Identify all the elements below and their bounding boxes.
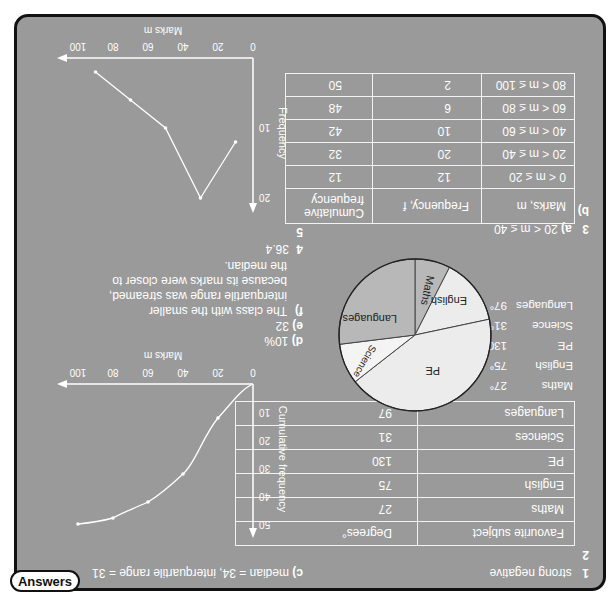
x-tick: 20 bbox=[212, 41, 224, 52]
pie-legend: Maths 27° English 75° PE 130° Science 31… bbox=[483, 296, 573, 396]
y-tick: 10 bbox=[259, 122, 271, 133]
cell: 40 < m ≤ 60 bbox=[482, 120, 575, 143]
legend-label: Science bbox=[507, 320, 573, 332]
x-tick: 80 bbox=[107, 41, 119, 52]
q3c-answer: median = 34, interquartile range = 31 bbox=[92, 566, 289, 580]
header-subject: Favourite subject bbox=[418, 522, 575, 546]
q3c-label: c) bbox=[292, 566, 303, 580]
answers-page: 1 strong negative 2 Favourite subject De… bbox=[0, 0, 616, 603]
table-row: 20 < m ≤ 40 20 32 bbox=[286, 143, 575, 166]
cumulative-curve bbox=[78, 384, 253, 524]
cell: Maths bbox=[418, 498, 575, 522]
cell: 6 bbox=[373, 97, 482, 120]
cell: 2 bbox=[373, 74, 482, 97]
q3a-label: a) bbox=[561, 222, 572, 236]
q4: 436.4 bbox=[33, 241, 303, 256]
x-tick: 60 bbox=[142, 41, 154, 52]
legend-label: Languages bbox=[507, 300, 573, 312]
table-row: 80 < m ≤ 100 2 50 bbox=[286, 74, 575, 97]
y-axis-label: Frequency bbox=[277, 107, 289, 159]
q3b-label: b) bbox=[578, 204, 589, 218]
legend-item: English 75° bbox=[483, 356, 573, 376]
y-tick: 20 bbox=[259, 192, 271, 203]
header-frequency: Frequency, f bbox=[373, 189, 482, 224]
legend-item: Languages 97° bbox=[483, 296, 573, 316]
legend-label: Maths bbox=[507, 380, 573, 392]
cell: 20 bbox=[373, 143, 482, 166]
table-row: 40 < m ≤ 60 10 42 bbox=[286, 120, 575, 143]
pie-slice-languages bbox=[339, 259, 415, 344]
y-tick: 30 bbox=[259, 463, 271, 474]
q3c: c) median = 34, interquartile range = 31 bbox=[92, 566, 303, 580]
x-tick: 40 bbox=[177, 41, 189, 52]
y-axis-label: Cumulative frequency bbox=[277, 406, 289, 513]
q3a-answer: 20 < m ≤ 40 bbox=[494, 222, 558, 236]
answers-tab: Answers bbox=[10, 570, 80, 592]
cell: 20 < m ≤ 40 bbox=[482, 143, 575, 166]
x-tick: 80 bbox=[107, 367, 119, 378]
frequency-polygon-chart: 0 20 40 60 80 100 Marks m 10 20 Frequenc… bbox=[23, 23, 303, 243]
pie-label-languages: Languages bbox=[342, 313, 397, 325]
x-tick: 100 bbox=[69, 367, 86, 378]
cell: 80 < m ≤ 100 bbox=[482, 74, 575, 97]
answers-panel: 1 strong negative 2 Favourite subject De… bbox=[14, 14, 606, 591]
cell: 60 < m ≤ 80 bbox=[482, 97, 575, 120]
cell: 0 < m ≤ 20 bbox=[482, 166, 575, 189]
legend-item: Science 31° bbox=[483, 316, 573, 336]
table-row: 0 < m ≤ 20 12 12 bbox=[286, 166, 575, 189]
y-tick: 50 bbox=[259, 519, 271, 530]
q3d: d) 10% bbox=[33, 333, 303, 348]
pie-label-english: English bbox=[431, 295, 467, 307]
q3-table: Marks, m Frequency, f Cumulative frequen… bbox=[285, 73, 575, 224]
pie-chart: Maths English PE Science Languages bbox=[335, 255, 495, 415]
legend-label: PE bbox=[507, 340, 573, 352]
cumulative-frequency-chart: 0 20 40 60 80 100 Marks m 10 20 30 40 50… bbox=[23, 344, 303, 564]
x-tick: 40 bbox=[177, 367, 189, 378]
x-tick: 0 bbox=[250, 41, 256, 52]
x-tick: 100 bbox=[69, 41, 86, 52]
header-marks: Marks, m bbox=[482, 189, 575, 224]
cell: Sciences bbox=[418, 426, 575, 450]
cell: PE bbox=[418, 450, 575, 474]
q3f: f)The class with the smaller interquarti… bbox=[33, 258, 303, 318]
q3-number: 3 bbox=[575, 222, 589, 236]
x-tick: 20 bbox=[212, 367, 224, 378]
q1: 1 strong negative bbox=[490, 566, 589, 580]
q2-number: 2 bbox=[575, 548, 589, 562]
x-tick: 0 bbox=[250, 367, 256, 378]
frequency-polygon-line bbox=[96, 72, 236, 198]
x-axis-label: Marks m bbox=[144, 350, 182, 361]
x-axis-label: Marks m bbox=[144, 25, 182, 36]
cell: 10 bbox=[373, 120, 482, 143]
cell: English bbox=[418, 474, 575, 498]
y-tick: 20 bbox=[259, 435, 271, 446]
y-tick: 40 bbox=[259, 491, 271, 502]
legend-item: Maths 27° bbox=[483, 376, 573, 396]
q3e: e) 32 bbox=[33, 318, 303, 333]
q3a: 3 a) 20 < m ≤ 40 bbox=[494, 222, 589, 236]
legend-label: English bbox=[507, 360, 573, 372]
cell: 12 bbox=[373, 166, 482, 189]
pie-label-pe: PE bbox=[425, 365, 440, 377]
table-row: 60 < m ≤ 80 6 48 bbox=[286, 97, 575, 120]
q1-number: 1 bbox=[575, 566, 589, 580]
legend-item: PE 130° bbox=[483, 336, 573, 356]
y-tick: 10 bbox=[259, 407, 271, 418]
table-header-row: Marks, m Frequency, f Cumulative frequen… bbox=[286, 189, 575, 224]
x-tick: 60 bbox=[142, 367, 154, 378]
q1-answer: strong negative bbox=[490, 566, 572, 580]
